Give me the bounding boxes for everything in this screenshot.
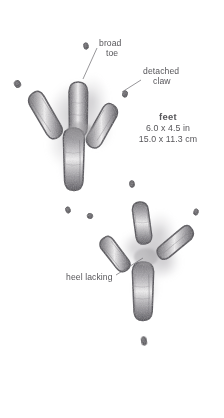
annotation-detached-claw-line1: detached: [143, 66, 179, 76]
annotation-heel-lacking: heel lacking: [66, 272, 113, 282]
lower-track-toe-bottom: [132, 262, 153, 320]
annotation-detached-claw-line2: claw: [143, 76, 179, 86]
measurements-block: feet 6.0 x 4.5 in 15.0 x 11.3 cm: [120, 111, 216, 146]
measurements-imperial: 6.0 x 4.5 in: [120, 123, 216, 134]
measurements-metric: 15.0 x 11.3 cm: [120, 134, 216, 145]
track-illustration-figure: [0, 0, 224, 418]
lower-track-junction: [134, 248, 158, 266]
annotation-broad-toe-line2: toe: [99, 48, 121, 58]
annotation-detached-claw: detached claw: [143, 66, 179, 86]
measurements-title: feet: [120, 111, 216, 123]
upper-track-junction: [67, 122, 93, 140]
annotation-broad-toe-line1: broad: [99, 38, 121, 48]
illustration-plate: broad toe detached claw heel lacking fee…: [0, 0, 224, 418]
annotation-broad-toe: broad toe: [99, 38, 121, 58]
